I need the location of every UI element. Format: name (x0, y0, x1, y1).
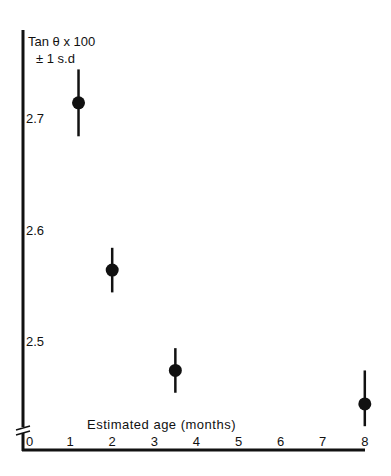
y-tick-label: 2.5 (26, 334, 44, 349)
data-point (358, 370, 371, 426)
x-tick-label: 2 (109, 434, 116, 449)
y-axis-sublabel: ± 1 s.d (36, 51, 75, 66)
data-point (169, 348, 182, 393)
x-tick-label: 5 (235, 434, 242, 449)
x-tick-labels: 012345678 (26, 434, 368, 449)
y-axis-label: Tan θ x 100 (28, 34, 95, 49)
data-points (72, 69, 371, 426)
chart: Tan θ x 100 ± 1 s.d Estimated age (month… (0, 0, 391, 476)
point-marker (72, 96, 85, 109)
x-tick-label: 0 (26, 434, 33, 449)
point-marker (106, 264, 119, 277)
x-tick-label: 3 (151, 434, 158, 449)
x-tick-label: 4 (193, 434, 200, 449)
x-tick-label: 6 (277, 434, 284, 449)
y-tick-label: 2.7 (26, 111, 44, 126)
x-axis-label: Estimated age (months) (87, 417, 236, 432)
data-point (106, 248, 119, 293)
y-tick-label: 2.6 (26, 223, 44, 238)
x-tick-label: 7 (319, 434, 326, 449)
point-marker (169, 364, 182, 377)
x-tick-label: 8 (361, 434, 368, 449)
y-tick-labels: 2.52.62.7 (26, 111, 44, 349)
data-point (72, 69, 85, 136)
x-tick-label: 1 (66, 434, 73, 449)
point-marker (358, 397, 371, 410)
